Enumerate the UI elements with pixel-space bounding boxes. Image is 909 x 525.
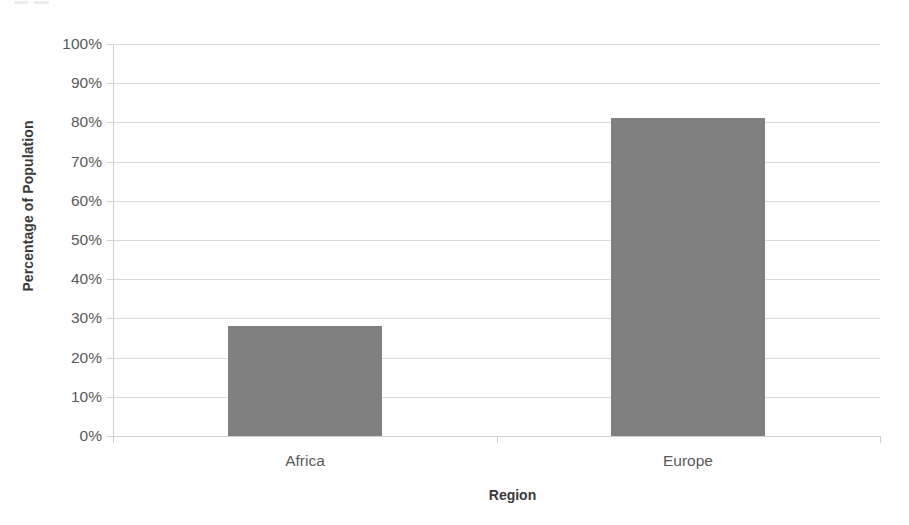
y-axis-tick-label: 50% xyxy=(30,231,102,249)
x-axis-tick xyxy=(113,436,114,443)
x-axis-tick xyxy=(497,436,498,443)
y-axis-tick-label: 80% xyxy=(30,113,102,131)
x-axis-label-africa: Africa xyxy=(225,452,385,470)
x-axis-title: Region xyxy=(489,487,536,503)
y-axis-tick-label: 60% xyxy=(30,192,102,210)
y-axis-tick-label: 40% xyxy=(30,270,102,288)
plot-area xyxy=(113,44,880,436)
x-axis-title-wrap: Region xyxy=(0,487,909,503)
y-axis-tick-label: 100% xyxy=(30,35,102,53)
top-edge-artifact xyxy=(14,0,52,5)
x-axis-label-europe: Europe xyxy=(608,452,768,470)
bar-africa[interactable] xyxy=(228,326,382,436)
y-axis-tick-label: 20% xyxy=(30,349,102,367)
y-axis-tick-label: 10% xyxy=(30,388,102,406)
x-axis-tick xyxy=(880,436,881,443)
y-axis-tick-label: 30% xyxy=(30,309,102,327)
y-axis-tick-label: 90% xyxy=(30,74,102,92)
y-axis-tick-label: 0% xyxy=(30,427,102,445)
y-axis-tick-label: 70% xyxy=(30,153,102,171)
bar-europe[interactable] xyxy=(611,118,765,436)
bar-chart: Percentage of Population 0%10%20%30%40%5… xyxy=(0,0,909,525)
